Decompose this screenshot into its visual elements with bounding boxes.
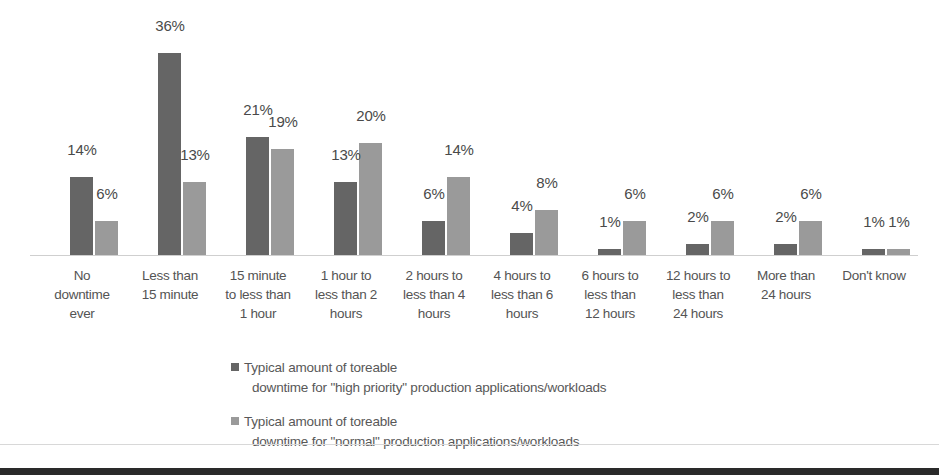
value-label-series1-cat8: 6%	[789, 185, 833, 202]
x-label-cat6-line3: 12 hours	[585, 306, 635, 321]
value-label-series1-cat9: 1%	[877, 213, 921, 230]
x-axis-line	[30, 255, 918, 256]
value-label-series1-cat2: 19%	[261, 113, 305, 130]
x-label-cat2-line3: 1 hour	[240, 306, 276, 321]
value-label-series0-cat5: 4%	[500, 197, 544, 214]
x-axis-category-labels: No downtime ever Less than 15 minute 15 …	[0, 266, 939, 336]
value-label-series1-cat0: 6%	[85, 185, 129, 202]
x-label-cat0: No downtime ever	[34, 266, 130, 323]
legend-label-series1: Typical amount of toreable downtime for …	[244, 412, 831, 452]
x-label-cat9: Don't know	[826, 266, 922, 285]
bar-series0-cat2[interactable]	[246, 137, 269, 255]
bar-series1-cat0[interactable]	[95, 221, 118, 255]
x-label-cat9-line1: Don't know	[842, 268, 905, 283]
x-label-cat7-line2: less than	[672, 287, 723, 302]
legend-item-high-priority[interactable]: Typical amount of toreable downtime for …	[231, 358, 831, 398]
bar-series0-cat9[interactable]	[862, 249, 885, 255]
x-label-cat6-line1: 6 hours to	[581, 268, 638, 283]
bar-series0-cat6[interactable]	[598, 249, 621, 255]
x-label-cat7: 12 hours to less than 24 hours	[650, 266, 746, 323]
x-label-cat1: Less than 15 minute	[122, 266, 218, 304]
value-label-series1-cat7: 6%	[701, 185, 745, 202]
bar-series1-cat1[interactable]	[183, 182, 206, 255]
bar-series1-cat8[interactable]	[799, 221, 822, 255]
bar-series1-cat7[interactable]	[711, 221, 734, 255]
x-label-cat0-line2: downtime	[54, 287, 109, 302]
x-label-cat4-line3: hours	[418, 306, 450, 321]
legend-label-series1-line2: downtime for "normal" production applica…	[252, 432, 831, 452]
x-label-cat3: 1 hour to less than 2 hours	[298, 266, 394, 323]
legend-swatch-icon-series0	[231, 363, 239, 371]
bar-series0-cat7[interactable]	[686, 244, 709, 255]
legend-label-series0: Typical amount of toreable downtime for …	[244, 358, 831, 398]
legend-item-normal[interactable]: Typical amount of toreable downtime for …	[231, 412, 831, 452]
value-label-series0-cat7: 2%	[676, 208, 720, 225]
page-edge-bar	[0, 468, 939, 475]
x-label-cat4-line2: less than 4	[403, 287, 465, 302]
value-label-series1-cat3: 20%	[349, 107, 393, 124]
value-label-series0-cat4: 6%	[412, 185, 456, 202]
x-label-cat6: 6 hours to less than 12 hours	[562, 266, 658, 323]
plot-area: 14% 6% 36% 13% 21% 19% 13% 20% 6	[0, 0, 939, 258]
x-label-cat0-line3: ever	[69, 306, 94, 321]
legend-label-series0-line1: Typical amount of toreable	[244, 360, 397, 375]
x-label-cat5-line3: hours	[506, 306, 538, 321]
page-rule-faint	[0, 444, 939, 445]
value-label-series0-cat3: 13%	[324, 146, 368, 163]
bar-series0-cat8[interactable]	[774, 244, 797, 255]
x-label-cat4: 2 hours to less than 4 hours	[386, 266, 482, 323]
x-label-cat6-line2: less than	[584, 287, 635, 302]
legend-label-series1-line1: Typical amount of toreable	[244, 414, 397, 429]
chart-page: 14% 6% 36% 13% 21% 19% 13% 20% 6	[0, 0, 939, 475]
bar-series1-cat2[interactable]	[271, 149, 294, 255]
x-label-cat2-line1: 15 minute	[230, 268, 287, 283]
value-label-series0-cat0: 14%	[60, 141, 104, 158]
value-label-series1-cat1: 13%	[173, 146, 217, 163]
x-label-cat5: 4 hours to less than 6 hours	[474, 266, 570, 323]
bar-series0-cat3[interactable]	[334, 182, 357, 255]
bar-series1-cat5[interactable]	[535, 210, 558, 255]
x-label-cat8: More than 24 hours	[738, 266, 834, 304]
value-label-series1-cat5: 8%	[525, 174, 569, 191]
legend-label-series0-line2: downtime for "high priority" production …	[252, 378, 831, 398]
x-label-cat3-line3: hours	[330, 306, 362, 321]
value-label-series1-cat4: 14%	[437, 141, 481, 158]
legend-swatch-icon-series1	[231, 417, 239, 425]
x-label-cat2: 15 minute to less than 1 hour	[210, 266, 306, 323]
x-label-cat3-line1: 1 hour to	[321, 268, 372, 283]
x-label-cat8-line2: 24 hours	[761, 287, 811, 302]
chart-legend: Typical amount of toreable downtime for …	[231, 358, 831, 466]
value-label-series0-cat6: 1%	[588, 213, 632, 230]
x-label-cat2-line2: to less than	[225, 287, 290, 302]
bar-series0-cat5[interactable]	[510, 233, 533, 255]
x-label-cat1-line2: 15 minute	[142, 287, 199, 302]
x-label-cat3-line2: less than 2	[315, 287, 377, 302]
bar-series1-cat9[interactable]	[887, 249, 910, 255]
x-label-cat5-line1: 4 hours to	[493, 268, 550, 283]
bar-series0-cat4[interactable]	[422, 221, 445, 255]
x-label-cat1-line1: Less than	[142, 268, 198, 283]
x-label-cat0-line1: No	[74, 268, 91, 283]
x-label-cat7-line3: 24 hours	[673, 306, 723, 321]
x-label-cat4-line1: 2 hours to	[405, 268, 462, 283]
value-label-series0-cat8: 2%	[764, 208, 808, 225]
value-label-series1-cat6: 6%	[613, 185, 657, 202]
x-label-cat8-line1: More than	[757, 268, 815, 283]
value-label-series0-cat1: 36%	[148, 17, 192, 34]
x-label-cat5-line2: less than 6	[491, 287, 553, 302]
x-label-cat7-line1: 12 hours to	[666, 268, 730, 283]
